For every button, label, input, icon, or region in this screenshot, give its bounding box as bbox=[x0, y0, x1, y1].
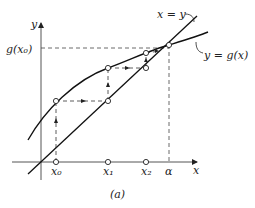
identity-line bbox=[28, 16, 197, 174]
figure-caption: (a) bbox=[110, 189, 125, 200]
direction-arrows bbox=[54, 49, 159, 123]
g-x0-label: g(x₀) bbox=[6, 44, 32, 55]
function-label: y = g(x) bbox=[204, 50, 248, 61]
fixed-point-iteration-diagram bbox=[0, 0, 255, 208]
tick-alpha: α bbox=[165, 166, 172, 177]
y-axis-label: y bbox=[31, 19, 37, 30]
tick-x0: x₀ bbox=[51, 166, 62, 177]
tick-x2: x₂ bbox=[141, 166, 152, 177]
iteration-points bbox=[53, 42, 171, 164]
x-axis-label: x bbox=[193, 165, 199, 176]
function-leader bbox=[196, 42, 203, 53]
tick-x1: x₁ bbox=[103, 166, 114, 177]
identity-label: x = y bbox=[157, 9, 186, 20]
